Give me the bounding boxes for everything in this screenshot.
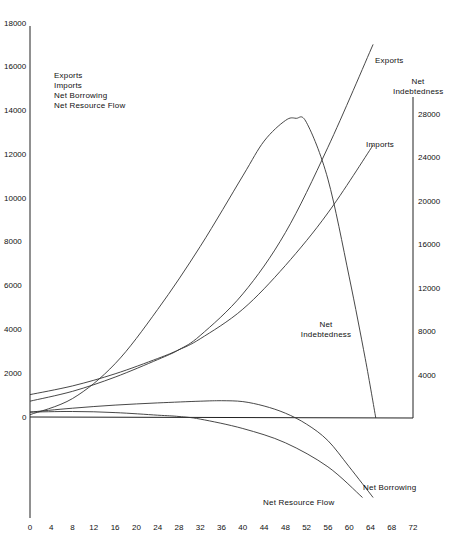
left-axis-title-line: Net Resource Flow (54, 101, 125, 111)
x-tick-label: 44 (260, 523, 269, 532)
right-tick-label: 4000 (418, 371, 436, 380)
x-tick-label: 28 (175, 523, 184, 532)
left-tick-label: 16000 (4, 62, 27, 71)
left-tick-label: 6000 (4, 281, 22, 290)
net-borrowing-curve-label: Net Borrowing (363, 483, 416, 493)
x-tick-label: 72 (409, 523, 418, 532)
net-borrowing-line (30, 401, 373, 498)
x-tick-label: 60 (345, 523, 354, 532)
left-tick-label: 18000 (4, 19, 27, 28)
right-tick-label: 12000 (418, 284, 441, 293)
left-tick-label: 10000 (4, 194, 27, 203)
series-lines (30, 44, 376, 497)
imports-line (30, 145, 373, 395)
imports-curve-label: Imports (366, 140, 394, 150)
x-tick-label: 36 (217, 523, 226, 532)
x-tick-label: 16 (111, 523, 120, 532)
left-axis-title-line: Net Borrowing (54, 91, 125, 101)
net-indebtedness-line (30, 117, 376, 418)
x-tick-label: 40 (238, 523, 247, 532)
x-tick-label: 32 (196, 523, 205, 532)
x-tick-label: 4 (49, 523, 54, 532)
x-tick-label: 64 (366, 523, 375, 532)
net-indebtedness-label-line: Indebtedness (298, 330, 354, 340)
zero-baseline (30, 417, 413, 418)
left-axis-ticks: 0200040006000800010000120001400016000180… (4, 19, 27, 422)
net-indebtedness-label-line: Net (298, 320, 354, 330)
x-tick-label: 12 (89, 523, 98, 532)
right-axis-title: Net Indebtedness (393, 77, 443, 97)
x-tick-label: 52 (302, 523, 311, 532)
left-tick-label: 12000 (4, 150, 27, 159)
x-axis-ticks: 04812162024283236404448525660646872 (28, 523, 418, 532)
net-resource-flow-line (30, 411, 363, 497)
left-tick-label: 0 (22, 413, 27, 422)
left-tick-label: 8000 (4, 237, 22, 246)
right-tick-label: 28000 (418, 110, 441, 119)
right-tick-label: 8000 (418, 327, 436, 336)
x-tick-label: 68 (387, 523, 396, 532)
x-tick-label: 48 (281, 523, 290, 532)
left-axis-title-line: Imports (54, 81, 125, 91)
left-tick-label: 2000 (4, 369, 22, 378)
right-axis-title-line: Net (393, 77, 443, 87)
x-tick-label: 24 (153, 523, 162, 532)
right-axis-title-line: Indebtedness (393, 87, 443, 97)
right-tick-label: 20000 (418, 197, 441, 206)
left-tick-label: 14000 (4, 106, 27, 115)
left-axis-title-line: Exports (54, 71, 125, 81)
right-axis-ticks: 400080001200016000200002400028000 (418, 110, 441, 380)
x-tick-label: 8 (70, 523, 75, 532)
x-tick-label: 0 (28, 523, 33, 532)
net-resource-flow-curve-label: Net Resource Flow (263, 498, 334, 508)
right-tick-label: 24000 (418, 153, 441, 162)
net-indebtedness-curve-label: Net Indebtedness (298, 320, 354, 340)
x-tick-label: 56 (323, 523, 332, 532)
left-axis-title: Exports Imports Net Borrowing Net Resour… (54, 71, 125, 111)
x-tick-label: 20 (132, 523, 141, 532)
exports-curve-label: Exports (375, 56, 404, 66)
left-tick-label: 4000 (4, 325, 22, 334)
right-tick-label: 16000 (418, 240, 441, 249)
